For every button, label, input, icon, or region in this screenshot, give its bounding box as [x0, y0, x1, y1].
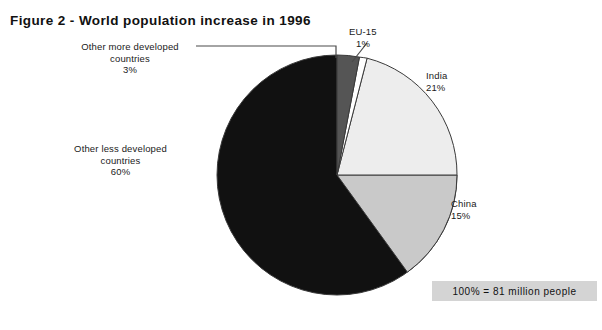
pie-label-other-more-developed-value: 3%	[60, 64, 200, 76]
total-footnote-box: 100% = 81 million people	[432, 281, 597, 301]
total-footnote-text: 100% = 81 million people	[452, 286, 576, 297]
pie-label-china-name: China	[451, 198, 505, 210]
pie-label-india-value: 21%	[426, 82, 480, 94]
pie-label-other-more-developed-line1: Other more developed	[60, 41, 200, 53]
pie-label-eu15: EU-15 1%	[349, 26, 395, 49]
pie-label-china-value: 15%	[451, 210, 505, 222]
pie-label-other-less-developed: Other less developed countries 60%	[48, 143, 193, 178]
pie-label-eu15-name: EU-15	[349, 26, 395, 38]
pie-label-other-more-developed-line2: countries	[60, 53, 200, 65]
pie-label-other-less-developed-line1: Other less developed	[48, 143, 193, 155]
pie-label-other-more-developed: Other more developed countries 3%	[60, 41, 200, 76]
pie-label-other-less-developed-value: 60%	[48, 166, 193, 178]
pie-label-india-name: India	[426, 70, 480, 82]
pie-label-other-less-developed-line2: countries	[48, 155, 193, 167]
pie-label-china: China 15%	[451, 198, 505, 221]
pie-label-india: India 21%	[426, 70, 480, 93]
pie-label-eu15-value: 1%	[349, 38, 395, 50]
leader-line-other-more-developed	[196, 46, 336, 58]
pie-chart-figure: Figure 2 - World population increase in …	[0, 0, 602, 330]
